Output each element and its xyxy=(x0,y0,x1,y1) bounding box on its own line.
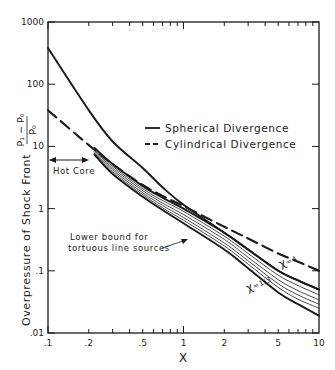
chart: .1.2.512510.01.11101001000 Spherical Div… xyxy=(0,0,335,370)
y-tick-label: 100 xyxy=(27,79,44,89)
x-tick-label: 2 xyxy=(221,338,227,348)
lower-bound-label-line1: Lower bound for xyxy=(70,232,148,242)
y-tick-label: .1 xyxy=(35,266,44,276)
hot-core-arrow xyxy=(49,157,89,163)
y-tick-label: 10 xyxy=(33,141,45,151)
x-tick-label: 10 xyxy=(313,338,325,348)
x-tick-label: .2 xyxy=(84,338,93,348)
annotations: Hot Core Lower bound for tortuous line s… xyxy=(49,157,299,295)
axes: .1.2.512510.01.11101001000 xyxy=(21,17,325,348)
y-tick-label: 1 xyxy=(38,204,44,214)
x-tick-label: 1 xyxy=(181,338,187,348)
chi-one-third-label: χ=1/3 xyxy=(244,272,274,295)
y-axis-fraction-numerator: P₁ − P₀ xyxy=(15,113,26,146)
x-tick-label: .5 xyxy=(138,338,147,348)
hot-core-label: Hot Core xyxy=(53,166,95,176)
x-tick-label: 5 xyxy=(275,338,281,348)
y-axis-title-text: Overpressure of Shock Front xyxy=(20,154,33,326)
lower-bound-pointer-head xyxy=(181,239,188,244)
x-axis-title: X xyxy=(179,351,187,365)
legend-label-spherical: Spherical Divergence xyxy=(165,122,289,134)
x-tick-label: .1 xyxy=(44,338,53,348)
lower-bound-label-line2: tortuous line sources xyxy=(68,243,170,253)
y-axis-fraction-denominator: P₀ xyxy=(27,125,38,135)
y-tick-label: 1000 xyxy=(21,17,44,27)
plot-frame xyxy=(48,22,319,333)
legend: Spherical Divergence Cylindrical Diverge… xyxy=(145,122,296,150)
legend-label-cylindrical: Cylindrical Divergence xyxy=(165,138,296,150)
curves xyxy=(48,48,319,316)
y-tick-label: .01 xyxy=(30,328,44,338)
